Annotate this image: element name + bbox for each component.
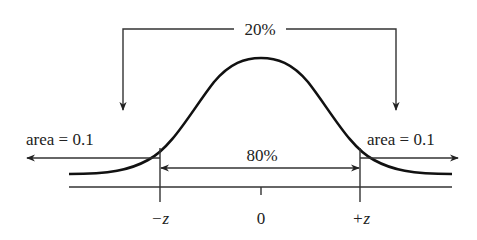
top-bracket-left-arrow <box>123 29 234 110</box>
center-percent-label: 80% <box>246 146 277 165</box>
zero-label: 0 <box>257 209 266 228</box>
left-tail-area-label: area = 0.1 <box>26 130 94 149</box>
right-tail-area-label: area = 0.1 <box>367 130 435 149</box>
plus-z-label: +z <box>352 209 370 228</box>
top-bracket-right-arrow <box>286 29 396 110</box>
normal-distribution-diagram: 20% area = 0.1 area = 0.1 80% −z 0 +z <box>0 0 477 240</box>
top-percent-label: 20% <box>244 20 275 39</box>
minus-z-label: −z <box>151 209 169 228</box>
top-bracket: 20% <box>123 20 396 110</box>
